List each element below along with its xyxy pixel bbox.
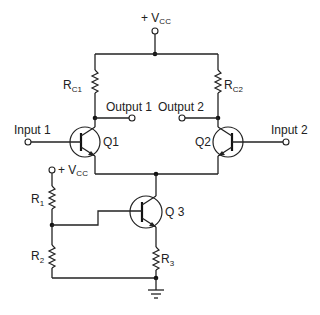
bias-vcc-terminal: + VCC (49, 163, 88, 178)
transistor-q2 (213, 118, 243, 170)
q2-label: Q2 (195, 135, 211, 149)
input1-terminal (25, 139, 31, 145)
vcc-supply-terminal: + VCC (141, 11, 171, 34)
vcc-label: + V (141, 11, 159, 25)
svg-text:+ VCC: + VCC (58, 163, 88, 178)
input2-label: Input 2 (271, 123, 308, 137)
svg-text:RC2: RC2 (224, 78, 243, 94)
resistor-rc1 (92, 70, 98, 93)
q3-label: Q 3 (165, 205, 185, 219)
svg-text:R3: R3 (161, 252, 175, 268)
svg-text:R1: R1 (31, 192, 45, 208)
r3-label-sub: 3 (170, 259, 175, 268)
resistor-r3 (153, 247, 159, 270)
bias-vcc-label: + V (58, 163, 76, 177)
r2-label: R (31, 249, 40, 263)
r1-label-sub: 1 (40, 199, 45, 208)
resistor-r2 (49, 245, 55, 268)
output1-label: Output 1 (106, 100, 152, 114)
resistor-rc2 (215, 70, 221, 93)
input1-label: Input 1 (14, 123, 51, 137)
q1-label: Q1 (103, 135, 119, 149)
input2-terminal (283, 139, 289, 145)
r1-label: R (31, 192, 40, 206)
rc2-label-sub: C2 (233, 85, 244, 94)
transistor-q3 (130, 193, 162, 247)
q3-base-wire (52, 211, 142, 225)
svg-text:RC1: RC1 (63, 78, 82, 94)
resistor-r1 (49, 186, 55, 209)
rc2-label: R (224, 78, 233, 92)
rc1-label: R (63, 78, 72, 92)
svg-text:R2: R2 (31, 249, 45, 265)
ground-icon (148, 290, 164, 298)
output1-terminal (129, 115, 135, 121)
vcc-label-sub: CC (159, 17, 171, 26)
output2-label: Output 2 (158, 100, 204, 114)
r3-label: R (161, 252, 170, 266)
r2-label-sub: 2 (40, 256, 45, 265)
svg-text:+ VCC: + VCC (141, 11, 171, 26)
differential-amplifier-schematic: + VCC RC1 RC2 Output 1 Output 2 Q1 Input… (0, 0, 320, 315)
output2-terminal (179, 115, 185, 121)
rc1-label-sub: C1 (72, 85, 83, 94)
bias-vcc-label-sub: CC (76, 169, 88, 178)
